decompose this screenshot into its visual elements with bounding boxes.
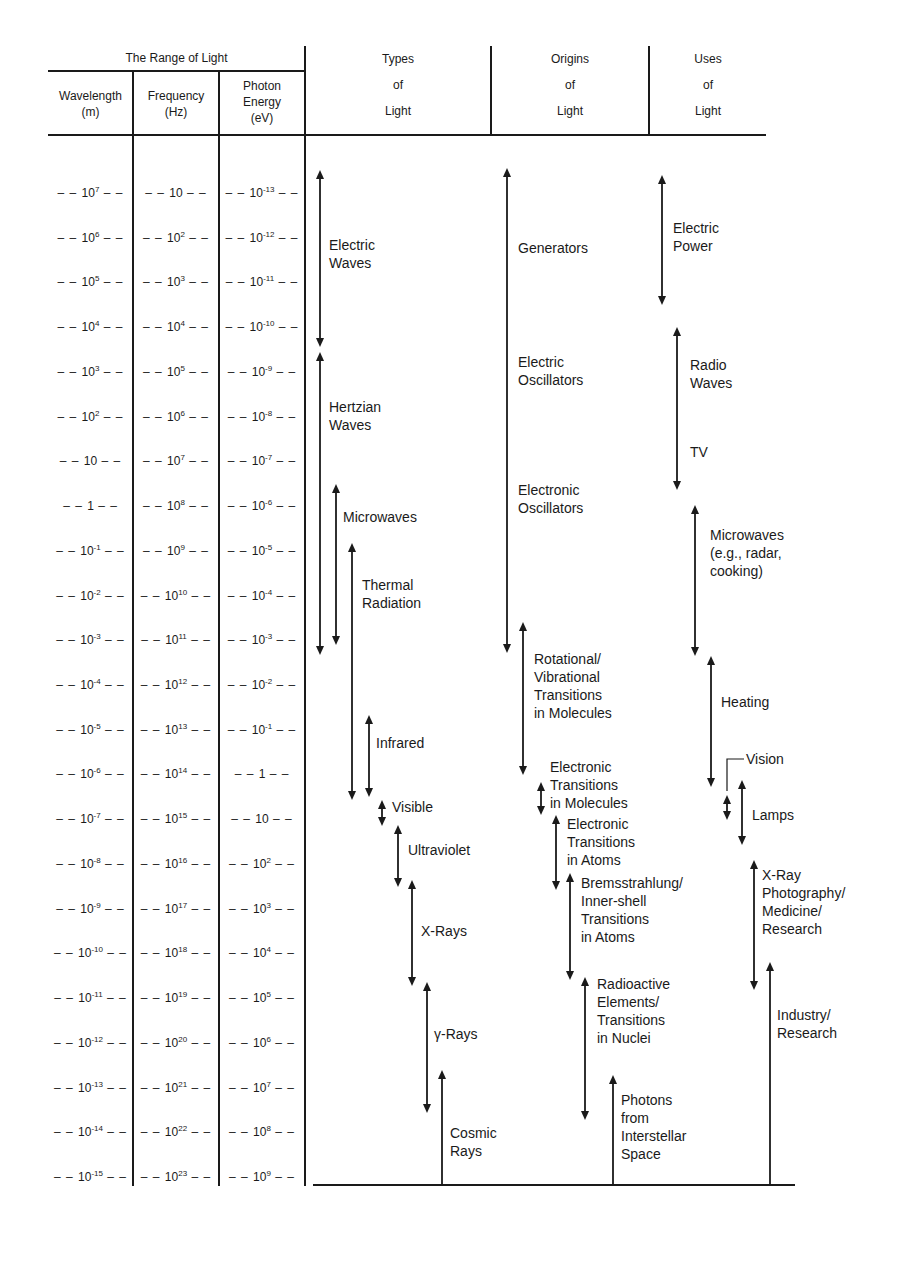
arrowhead-icon xyxy=(552,815,560,824)
arrowhead-icon xyxy=(332,636,340,645)
arrowhead-icon xyxy=(581,977,589,986)
label-line: Photography/ xyxy=(762,884,845,902)
label-line: Thermal xyxy=(362,576,421,594)
label-line: Cosmic xyxy=(450,1124,497,1142)
vision-label: Vision xyxy=(746,750,784,768)
label-line: X-Rays xyxy=(421,922,467,940)
arrowhead-icon xyxy=(348,543,356,552)
label-line: in Nuclei xyxy=(597,1029,670,1047)
arrowhead-icon xyxy=(423,1104,431,1113)
label-line: (e.g., radar, xyxy=(710,544,784,562)
label-line: Transitions xyxy=(581,910,683,928)
x-ray-photography-label: X-RayPhotography/Medicine/Research xyxy=(762,866,845,938)
ultraviolet-label: Ultraviolet xyxy=(408,841,470,859)
arrowhead-icon xyxy=(537,806,545,815)
label-line: Heating xyxy=(721,693,769,711)
label-line: Oscillators xyxy=(518,499,583,517)
label-line: Waves xyxy=(329,254,375,272)
arrowhead-icon xyxy=(552,881,560,890)
label-line: Research xyxy=(762,920,845,938)
arrowhead-icon xyxy=(566,971,574,980)
label-line: from xyxy=(621,1109,686,1127)
rotational-vibrational-label: Rotational/VibrationalTransitionsin Mole… xyxy=(534,650,612,722)
label-line: X-Ray xyxy=(762,866,845,884)
label-line: Ultraviolet xyxy=(408,841,470,859)
arrowhead-icon xyxy=(766,962,774,971)
label-line: Electronic xyxy=(567,815,635,833)
label-line: Electronic xyxy=(518,481,583,499)
arrowhead-icon xyxy=(408,977,416,986)
bremsstrahlung-label: Bremsstrahlung/Inner-shellTransitionsin … xyxy=(581,874,683,946)
label-line: in Molecules xyxy=(550,794,628,812)
lamps-label: Lamps xyxy=(752,806,794,824)
label-line: Transitions xyxy=(567,833,635,851)
arrowhead-icon xyxy=(723,795,731,804)
arrowhead-icon xyxy=(332,484,340,493)
label-line: Generators xyxy=(518,239,588,257)
arrowhead-icon xyxy=(316,352,324,361)
label-line: Rotational/ xyxy=(534,650,612,668)
label-line: Radiation xyxy=(362,594,421,612)
label-line: Rays xyxy=(450,1142,497,1160)
arrowhead-icon xyxy=(503,168,511,177)
generators-label: Generators xyxy=(518,239,588,257)
label-line: Photons xyxy=(621,1091,686,1109)
label-line: Vision xyxy=(746,750,784,768)
microwaves-use-label: Microwaves(e.g., radar,cooking) xyxy=(710,526,784,580)
arrowhead-icon xyxy=(316,646,324,655)
label-line: γ-Rays xyxy=(434,1025,478,1043)
arrowhead-icon xyxy=(519,766,527,775)
label-line: Electric xyxy=(673,219,719,237)
electronic-atoms-label: ElectronicTransitionsin Atoms xyxy=(567,815,635,869)
arrowhead-icon xyxy=(408,880,416,889)
arrowhead-icon xyxy=(658,175,666,184)
label-line: Radio xyxy=(690,356,732,374)
label-line: Electric xyxy=(518,353,583,371)
interstellar-photons-label: PhotonsfromInterstellarSpace xyxy=(621,1091,686,1163)
arrowhead-icon xyxy=(378,817,386,826)
arrowhead-icon xyxy=(658,296,666,305)
arrowhead-icon xyxy=(673,481,681,490)
label-line: in Molecules xyxy=(534,704,612,722)
label-line: Medicine/ xyxy=(762,902,845,920)
label-line: Inner-shell xyxy=(581,892,683,910)
label-line: Elements/ xyxy=(597,993,670,1011)
microwaves-label: Microwaves xyxy=(343,508,417,526)
arrowhead-icon xyxy=(394,825,402,834)
label-line: Electronic xyxy=(550,758,628,776)
arrowhead-icon xyxy=(316,170,324,179)
arrowhead-icon xyxy=(673,327,681,336)
label-line: Hertzian xyxy=(329,398,381,416)
label-line: Microwaves xyxy=(710,526,784,544)
arrowhead-icon xyxy=(750,981,758,990)
arrowhead-icon xyxy=(566,873,574,882)
gamma-rays-label: γ-Rays xyxy=(434,1025,478,1043)
label-line: Bremsstrahlung/ xyxy=(581,874,683,892)
label-line: Research xyxy=(777,1024,837,1042)
tv-label: TV xyxy=(690,443,708,461)
arrowhead-icon xyxy=(609,1075,617,1084)
arrowhead-icon xyxy=(438,1070,446,1079)
label-line: in Atoms xyxy=(581,928,683,946)
arrowhead-icon xyxy=(707,778,715,787)
x-rays-label: X-Rays xyxy=(421,922,467,940)
label-line: Space xyxy=(621,1145,686,1163)
arrowhead-icon xyxy=(394,878,402,887)
radioactive-label: RadioactiveElements/Transitionsin Nuclei xyxy=(597,975,670,1047)
visible-label: Visible xyxy=(392,798,433,816)
infrared-label: Infrared xyxy=(376,734,424,752)
label-line: Interstellar xyxy=(621,1127,686,1145)
thermal-radiation-label: ThermalRadiation xyxy=(362,576,421,612)
arrowhead-icon xyxy=(519,622,527,631)
label-line: Waves xyxy=(329,416,381,434)
arrowhead-icon xyxy=(723,811,731,820)
label-line: in Atoms xyxy=(567,851,635,869)
label-line: Oscillators xyxy=(518,371,583,389)
label-line: TV xyxy=(690,443,708,461)
arrowhead-icon xyxy=(750,860,758,869)
arrowhead-icon xyxy=(423,982,431,991)
arrowhead-icon xyxy=(738,780,746,789)
label-line: Vibrational xyxy=(534,668,612,686)
electronic-oscillators-label: ElectronicOscillators xyxy=(518,481,583,517)
arrowhead-icon xyxy=(537,782,545,791)
